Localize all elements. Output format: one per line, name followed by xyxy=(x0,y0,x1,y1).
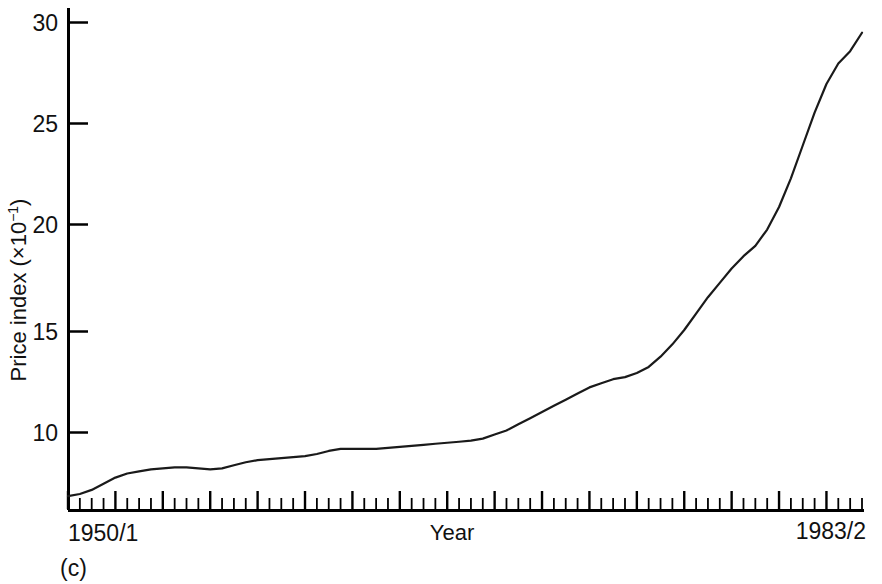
x-tick-label-start: 1950/1 xyxy=(68,520,138,546)
y-tick-label-10: 10 xyxy=(32,420,58,446)
y-axis-title-suffix: ) xyxy=(6,199,31,206)
y-axis-title-main: Price index (×10 xyxy=(6,222,31,382)
y-axis-title-exponent: −1 xyxy=(5,206,21,222)
chart-background xyxy=(0,0,882,584)
figure-page: 30 25 20 15 10 Price index (×10−1) 1950/… xyxy=(0,0,882,584)
price-index-line-chart: 30 25 20 15 10 Price index (×10−1) 1950/… xyxy=(0,0,882,584)
y-tick-label-15: 15 xyxy=(32,319,58,345)
x-tick-label-end: 1983/2 xyxy=(796,518,866,544)
y-axis-title: Price index (×10−1) xyxy=(5,199,31,382)
y-tick-label-25: 25 xyxy=(32,111,58,137)
figure-caption: (c) xyxy=(60,555,87,581)
y-tick-label-20: 20 xyxy=(32,212,58,238)
x-axis-title: Year xyxy=(430,520,474,545)
y-axis-title-group: Price index (×10−1) xyxy=(5,199,31,382)
y-tick-label-30: 30 xyxy=(32,10,58,36)
